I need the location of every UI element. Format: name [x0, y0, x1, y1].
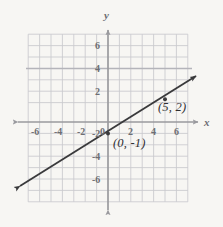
x-tick-label-0: 0 — [100, 127, 105, 137]
graph-canvas — [0, 0, 223, 227]
x-tick-label-minus-6: -6 — [31, 127, 39, 137]
y-axis-name-label: y — [104, 10, 109, 21]
x-tick-label-6: 6 — [174, 127, 179, 137]
annotation-point-five-two: (5, 2) — [158, 101, 186, 114]
y-tick-label-4: 4 — [95, 64, 100, 74]
coordinate-plane-figure: 6 4 2 -2 -4 -6 -6 -4 -2 0 2 4 6 y x (0, … — [0, 0, 223, 227]
x-axis-name-label: x — [204, 117, 210, 128]
point-dot-y-intercept — [106, 131, 110, 135]
y-tick-label-minus-4: -4 — [92, 152, 100, 162]
x-tick-label-4: 4 — [151, 127, 156, 137]
y-tick-label-6: 6 — [95, 41, 100, 51]
x-tick-label-minus-4: -4 — [54, 127, 62, 137]
annotation-y-intercept: (0, -1) — [113, 137, 146, 150]
x-tick-label-minus-2: -2 — [77, 127, 85, 137]
y-tick-label-2: 2 — [95, 87, 100, 97]
y-tick-label-minus-6: -6 — [92, 175, 100, 185]
